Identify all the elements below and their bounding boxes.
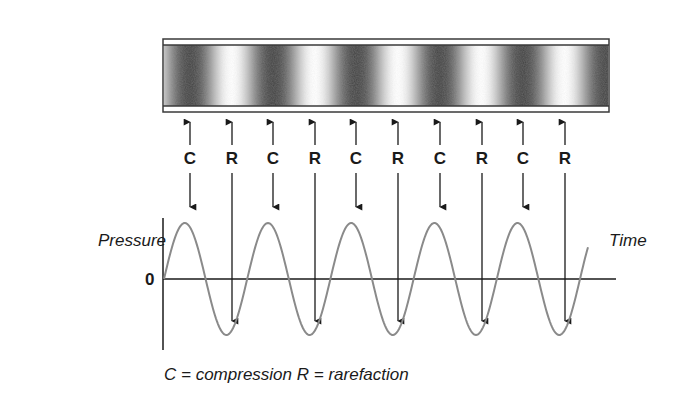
diagram-canvas — [0, 0, 685, 411]
rarefaction-marker-label: R — [476, 149, 488, 169]
compression-marker-label: C — [267, 149, 279, 169]
rarefaction-marker-label: R — [559, 149, 571, 169]
density-bands — [164, 45, 608, 106]
rarefaction-marker-label: R — [309, 149, 321, 169]
rarefaction-marker-label: R — [392, 149, 404, 169]
cr-markers — [190, 122, 565, 321]
y-axis-label: Pressure — [98, 231, 166, 251]
air-tube — [163, 39, 609, 112]
pressure-graph — [163, 218, 616, 350]
x-axis-label: Time — [609, 231, 647, 251]
compression-marker-label: C — [517, 149, 529, 169]
compression-marker-label: C — [350, 149, 362, 169]
zero-label: 0 — [145, 270, 154, 290]
sound-wave-diagram: CRCRCRCRCR Pressure Time 0 C = compressi… — [0, 0, 685, 411]
legend-caption: C = compression R = rarefaction — [164, 365, 409, 385]
rarefaction-marker-label: R — [226, 149, 238, 169]
compression-marker-label: C — [184, 149, 196, 169]
compression-marker-label: C — [434, 149, 446, 169]
